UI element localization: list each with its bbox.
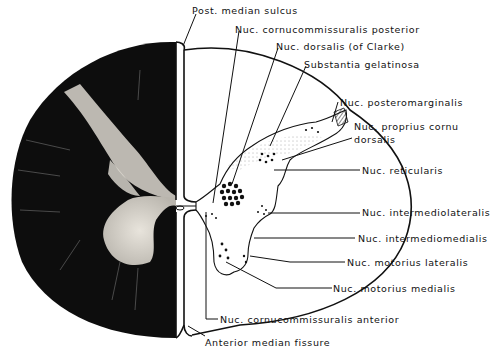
label-nuc-cornucommissuralis-posterior: Nuc. cornucommissuralis posterior [235,24,420,35]
label-nuc-posteromarginalis: Nuc. posteromarginalis [340,97,463,108]
label-nuc-proprius-cornu: Nuc. proprius cornu [354,121,459,132]
label-anterior-median-fissure: Anterior median fissure [205,337,330,348]
label-nuc-motorius-medialis: Nuc. motorius medialis [333,283,456,294]
label-substantia-gelatinosa: Substantia gelatinosa [304,59,420,70]
label-nuc-intermediomedialis: Nuc. intermediomedialis [358,233,488,244]
label-nuc-proprius-dorsalis: dorsalis [354,134,396,145]
label-nuc-motorius-lateralis: Nuc. motorius lateralis [347,257,468,268]
label-nuc-cornucommissuralis-anterior: Nuc. cornucommissuralis anterior [220,314,399,325]
label-post-median-sulcus: Post. median sulcus [192,5,298,16]
label-nuc-dorsalis: Nuc. dorsalis (of Clarke) [276,41,405,52]
label-nuc-intermediolateralis: Nuc. intermediolateralis [362,207,490,218]
stained-section-left-half [12,42,176,338]
gray-matter-drawing [196,108,348,275]
label-nuc-reticularis: Nuc. reticularis [362,165,443,176]
